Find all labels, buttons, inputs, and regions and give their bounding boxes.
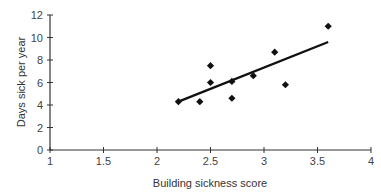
y-tick-label: 0	[37, 144, 43, 156]
axes: 11.522.533.54024681012	[31, 9, 374, 167]
y-tick-label: 6	[37, 77, 43, 89]
y-tick-label: 10	[31, 32, 43, 44]
x-tick-label: 2	[154, 155, 160, 167]
y-tick-label: 8	[37, 54, 43, 66]
trendline-line	[178, 42, 328, 102]
scatter-chart: 11.522.533.54024681012 Building sickness…	[0, 0, 381, 196]
x-tick-label: 2.5	[203, 155, 218, 167]
y-tick-label: 12	[31, 9, 43, 21]
diamond-marker	[175, 98, 182, 105]
x-tick-label: 1.5	[96, 155, 111, 167]
x-tick-label: 1	[47, 155, 53, 167]
diamond-marker	[325, 23, 332, 30]
x-tick-label: 3.5	[310, 155, 325, 167]
diamond-marker	[282, 81, 289, 88]
y-axis-title: Days sick per year	[15, 36, 27, 127]
trendline	[178, 42, 328, 102]
diamond-marker	[207, 62, 214, 69]
diamond-marker	[228, 95, 235, 102]
y-tick-label: 2	[37, 122, 43, 134]
x-tick-label: 3	[261, 155, 267, 167]
x-tick-label: 4	[368, 155, 374, 167]
y-tick-label: 4	[37, 99, 43, 111]
x-axis-title: Building sickness score	[153, 177, 267, 189]
diamond-marker	[271, 49, 278, 56]
diamond-marker	[207, 79, 214, 86]
diamond-marker	[196, 98, 203, 105]
